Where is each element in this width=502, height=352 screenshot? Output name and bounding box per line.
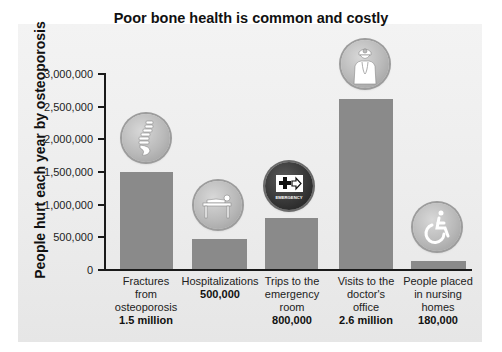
- cat-line: doctor's: [326, 288, 406, 301]
- y-tick-label: 3,000,000: [44, 68, 93, 80]
- cat-line: Visits to the: [326, 275, 406, 288]
- cat-line: osteoporosis: [106, 301, 186, 314]
- wheelchair-icon: [413, 203, 461, 251]
- bar-nursing-homes: [411, 261, 466, 269]
- y-tick: [98, 171, 106, 173]
- value-label: 2.6 million: [326, 314, 406, 327]
- y-tick: [98, 73, 106, 75]
- cat-line: office: [326, 301, 406, 314]
- emergency-icon: EMERGENCY: [265, 162, 313, 210]
- y-tick: [98, 138, 106, 140]
- bar-hospitalizations: [192, 239, 247, 269]
- y-tick-label: 2,000,000: [44, 133, 93, 145]
- cat-line: emergency: [252, 288, 332, 301]
- y-axis-label: People hurt each year by osteoporosis: [32, 21, 48, 279]
- cat-line: Fractures: [106, 275, 186, 288]
- category-label-hospitalizations: Hospitalizations 500,000: [180, 275, 260, 301]
- category-label-doctor: Visits to the doctor's office 2.6 millio…: [326, 275, 406, 327]
- cat-line: Hospitalizations: [180, 275, 260, 288]
- emergency-label: EMERGENCY: [276, 195, 303, 200]
- bar-doctor-visits: [339, 99, 393, 269]
- category-label-nursing: People placed in nursing homes 180,000: [398, 275, 478, 327]
- y-tick: [98, 269, 106, 271]
- y-tick-label: 1,500,000: [44, 166, 93, 178]
- doctor-icon: [341, 40, 389, 88]
- value-label: 500,000: [180, 288, 260, 301]
- bar-emergency-trips: [265, 218, 318, 269]
- category-label-emergency: Trips to the emergency room 800,000: [252, 275, 332, 327]
- y-tick: [98, 236, 106, 238]
- category-label-fractures: Fractures from osteoporosis 1.5 million: [106, 275, 186, 327]
- y-tick-label: 1,000,000: [44, 199, 93, 211]
- value-label: 1.5 million: [106, 314, 186, 327]
- y-tick-label: 500,000: [53, 231, 93, 243]
- bar-fractures: [120, 172, 173, 269]
- spine-icon: [122, 114, 170, 162]
- value-label: 800,000: [252, 314, 332, 327]
- chart-title: Poor bone health is common and costly: [0, 10, 502, 26]
- x-axis-line: [104, 269, 472, 271]
- cat-line: homes: [398, 301, 478, 314]
- cat-line: room: [252, 301, 332, 314]
- value-label: 180,000: [398, 314, 478, 327]
- cat-line: in nursing: [398, 288, 478, 301]
- y-tick-label: 2,500,000: [44, 101, 93, 113]
- y-tick: [98, 106, 106, 108]
- cat-line: Trips to the: [252, 275, 332, 288]
- cat-line: People placed: [398, 275, 478, 288]
- y-tick-label: 0: [87, 264, 93, 276]
- y-tick: [98, 204, 106, 206]
- cat-line: from: [106, 288, 186, 301]
- hospital-bed-icon: [194, 181, 242, 229]
